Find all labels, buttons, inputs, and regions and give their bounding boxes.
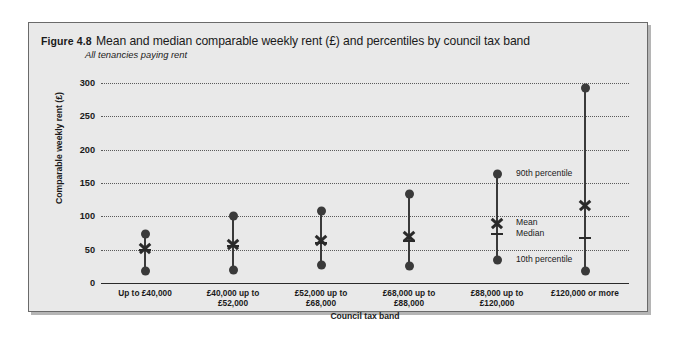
plot-wrapper: Comparable weekly rent (£) 0501001502002… xyxy=(29,23,649,313)
x-tick-label: £120,000 or more xyxy=(541,288,629,298)
plot-area: 90th percentileMeanMedian10th percentile xyxy=(101,83,629,283)
legend-text: 10th percentile xyxy=(516,254,572,264)
gridline xyxy=(101,216,629,217)
gridline xyxy=(101,116,629,117)
gridline xyxy=(101,150,629,151)
mean-marker xyxy=(138,241,152,255)
y-axis-ticks: 050100150200250300 xyxy=(65,83,95,283)
y-tick-label: 100 xyxy=(65,211,95,221)
x-tick-label: £52,000 up to£68,000 xyxy=(277,288,365,308)
mean-marker xyxy=(314,233,328,247)
mean-marker xyxy=(578,198,592,212)
p90-marker xyxy=(581,84,590,93)
x-tick-label: £68,000 up to£88,000 xyxy=(365,288,453,308)
gridline xyxy=(101,183,629,184)
p10-marker xyxy=(581,267,590,276)
mean-marker xyxy=(226,237,240,251)
p10-marker xyxy=(405,262,414,271)
x-axis-title: Council tax band xyxy=(101,311,629,321)
x-tick-label: £88,000 up to£120,000 xyxy=(453,288,541,308)
x-tick-label-line: £68,000 up to xyxy=(365,288,453,298)
y-tick-label: 250 xyxy=(65,111,95,121)
legend-text: Mean xyxy=(516,217,538,227)
p90-marker xyxy=(229,212,238,221)
p90-marker xyxy=(317,207,326,216)
gridline xyxy=(101,83,629,84)
x-tick-label-line: Up to £40,000 xyxy=(101,288,189,298)
p10-marker xyxy=(317,261,326,270)
x-tick-label: £40,000 up to£52,000 xyxy=(189,288,277,308)
y-tick-label: 200 xyxy=(65,145,95,155)
x-tick-label: Up to £40,000 xyxy=(101,288,189,298)
x-tick-label-line: £88,000 up to xyxy=(453,288,541,298)
x-axis-line xyxy=(101,283,629,284)
p90-marker xyxy=(493,170,502,179)
figure-panel: Figure 4.8 Mean and median comparable we… xyxy=(28,22,648,312)
y-tick-label: 300 xyxy=(65,78,95,88)
legend-text: Median xyxy=(516,228,544,238)
p90-marker xyxy=(405,190,414,199)
median-marker xyxy=(491,233,503,235)
y-tick-label: 150 xyxy=(65,178,95,188)
gridline xyxy=(101,250,629,251)
p90-marker xyxy=(141,229,150,238)
x-tick-label-line: £68,000 xyxy=(277,298,365,308)
percentile-range-line xyxy=(584,88,586,271)
y-tick-label: 0 xyxy=(65,278,95,288)
legend-text: 90th percentile xyxy=(516,168,572,178)
p10-marker xyxy=(229,266,238,275)
mean-marker xyxy=(490,216,504,230)
p10-marker xyxy=(493,256,502,265)
x-tick-label-line: £52,000 up to xyxy=(277,288,365,298)
x-tick-label-line: £40,000 up to xyxy=(189,288,277,298)
x-tick-label-line: £88,000 xyxy=(365,298,453,308)
mean-marker xyxy=(402,229,416,243)
x-tick-label-line: £52,000 xyxy=(189,298,277,308)
x-tick-label-line: £120,000 xyxy=(453,298,541,308)
y-tick-label: 50 xyxy=(65,245,95,255)
p10-marker xyxy=(141,267,150,276)
x-tick-label-line: £120,000 or more xyxy=(541,288,629,298)
median-marker xyxy=(579,237,591,239)
y-axis-title: Comparable weekly rent (£) xyxy=(54,58,64,238)
